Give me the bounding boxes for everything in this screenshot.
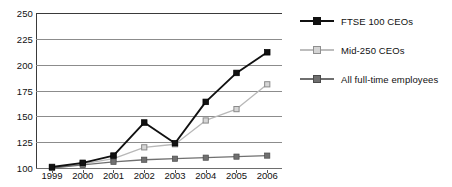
chart-legend: FTSE 100 CEOsMid-250 CEOsAll full-time e… <box>300 14 450 101</box>
legend-marker <box>313 17 321 25</box>
y-tick-label-250: 250 <box>3 8 33 19</box>
data-point <box>142 157 147 162</box>
y-axis-labels: 250225200175150125100 <box>0 0 33 187</box>
legend-key <box>300 15 334 27</box>
data-point <box>234 70 240 76</box>
legend-item-2: All full-time employees <box>300 72 450 86</box>
y-tick-label-225: 225 <box>3 33 33 44</box>
series-layer <box>36 13 282 168</box>
y-tick-label-125: 125 <box>3 137 33 148</box>
gridline-100 <box>36 168 282 169</box>
data-point <box>203 99 209 105</box>
x-axis-labels: 19992000200120022003200420052006 <box>36 170 282 186</box>
y-tick-label-200: 200 <box>3 59 33 70</box>
x-tick-label-1999: 1999 <box>41 170 62 181</box>
data-point <box>141 120 147 126</box>
data-point <box>49 164 55 170</box>
y-tick-label-100: 100 <box>3 163 33 174</box>
data-point <box>172 156 177 161</box>
x-tick-label-2006: 2006 <box>257 170 278 181</box>
legend-label: FTSE 100 CEOs <box>341 16 413 27</box>
legend-item-1: Mid-250 CEOs <box>300 43 450 57</box>
legend-marker <box>313 46 321 54</box>
data-point <box>111 159 116 164</box>
legend-label: All full-time employees <box>341 74 438 85</box>
x-tick-label-2001: 2001 <box>103 170 124 181</box>
legend-label: Mid-250 CEOs <box>341 45 405 56</box>
y-tick-label-175: 175 <box>3 85 33 96</box>
data-point <box>203 118 208 123</box>
data-point <box>80 160 86 166</box>
y-tick-label-150: 150 <box>3 111 33 122</box>
data-point <box>172 140 178 146</box>
x-tick-label-2005: 2005 <box>226 170 247 181</box>
legend-key <box>300 44 334 56</box>
data-point <box>264 49 270 55</box>
data-point <box>111 153 117 159</box>
data-point <box>265 153 270 158</box>
legend-item-0: FTSE 100 CEOs <box>300 14 450 28</box>
legend-key <box>300 73 334 85</box>
x-tick-label-2003: 2003 <box>164 170 185 181</box>
plot-area <box>36 13 282 168</box>
x-tick-label-2004: 2004 <box>195 170 216 181</box>
data-point <box>203 155 208 160</box>
data-point <box>234 107 239 112</box>
legend-marker <box>313 75 321 83</box>
chart-root: 250225200175150125100 199920002001200220… <box>0 0 452 187</box>
data-point <box>234 154 239 159</box>
data-point <box>142 145 147 150</box>
x-tick-label-2000: 2000 <box>72 170 93 181</box>
data-point <box>265 82 270 87</box>
x-tick-label-2002: 2002 <box>134 170 155 181</box>
